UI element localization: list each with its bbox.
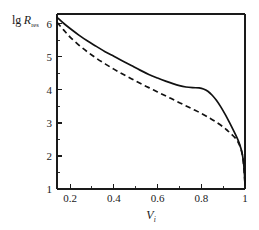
data-curves [57,17,245,185]
y-tick-label: 4 [47,84,53,96]
dashed-curve [57,22,245,185]
x-axis-ticks [70,184,245,189]
y-tick-label: 2 [47,150,53,162]
x-tick-label: 0.6 [151,192,165,204]
y-tick-label: 6 [47,18,53,30]
chart-canvas: 0.20.40.60.81 123456 lgRres Vi [0,0,259,230]
x-tick-label: 0.8 [194,192,208,204]
y-axis-title-subscript: res [31,21,39,28]
y-tick-label: 3 [47,117,53,129]
y-axis-title-lg: lg [12,13,21,27]
solid-curve [57,17,245,185]
y-axis-ticks [57,24,62,189]
y-tick-label: 5 [47,51,53,63]
x-axis-title-subscript: i [154,215,156,224]
x-tick-label: 0.4 [107,192,121,204]
x-axis-tick-labels: 0.20.40.60.81 [63,192,248,204]
x-tick-label: 0.2 [63,192,77,204]
y-tick-label: 1 [47,183,53,195]
x-tick-label: 1 [242,192,248,204]
y-axis-title: lgRres [12,13,39,28]
figure-container: 0.20.40.60.81 123456 lgRres Vi [0,0,259,230]
x-axis-title: Vi [146,208,155,224]
y-axis-tick-labels: 123456 [47,18,53,195]
